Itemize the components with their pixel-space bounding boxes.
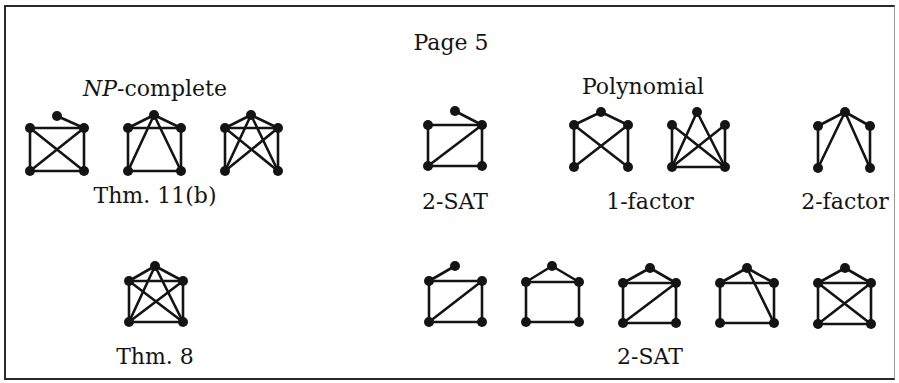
graph-vertex (521, 317, 531, 327)
np-graph-3 (220, 110, 283, 176)
graph-vertex (150, 261, 160, 271)
graph-vertex (813, 163, 823, 173)
graph-vertex (246, 110, 256, 120)
graph-vertex (423, 120, 433, 130)
graph-vertex (220, 166, 230, 176)
graph-vertex (547, 261, 557, 271)
graph-vertex (574, 277, 584, 287)
graph-vertex (618, 278, 628, 288)
graph-vertex (273, 166, 283, 176)
graph-vertex (623, 162, 633, 172)
graph-vertex (52, 111, 62, 121)
graph-vertex (477, 120, 487, 130)
graph-vertex (769, 318, 779, 328)
graph-vertex (424, 276, 434, 286)
graph-vertex (596, 107, 606, 117)
graph-vertex (424, 317, 434, 327)
graph-vertex (25, 123, 35, 133)
graph-vertex (645, 263, 655, 273)
graph-vertex (574, 317, 584, 327)
graph-vertex (477, 276, 487, 286)
graph-edge (697, 112, 725, 167)
graph-vertex (521, 277, 531, 287)
poly-1factor-graph-2 (667, 107, 730, 172)
bottom-2sat-graph-5 (813, 263, 876, 329)
graph-vertex (124, 317, 134, 327)
graph-vertex (79, 166, 89, 176)
graph-vertex (865, 163, 875, 173)
graph-vertex (450, 106, 460, 116)
graph-vertex (569, 162, 579, 172)
poly-2factor-graph (813, 107, 875, 173)
graph-vertex (477, 317, 487, 327)
graph-vertex (671, 318, 681, 328)
graph-vertex (720, 120, 730, 130)
graph-vertex (840, 107, 850, 117)
graph-vertex (450, 261, 460, 271)
bottom-2sat-graph-4 (715, 263, 779, 328)
graph-edge (251, 115, 278, 171)
graph-vertex (769, 278, 779, 288)
graph-vertex (865, 121, 875, 131)
graph-edge (623, 283, 676, 323)
graph-vertex (667, 162, 677, 172)
graph-vertex (273, 123, 283, 133)
graph-vertex (720, 162, 730, 172)
graph-vertex (123, 166, 133, 176)
poly-2sat-graph (423, 106, 487, 171)
graph-vertex (813, 319, 823, 329)
graph-edge (154, 115, 181, 171)
graph-vertex (220, 123, 230, 133)
graph-vertex (123, 123, 133, 133)
thm8-graph-k5 (124, 261, 188, 327)
graph-vertex (176, 166, 186, 176)
graph-vertex (692, 107, 702, 117)
graph-vertex (477, 161, 487, 171)
graph-vertex (813, 121, 823, 131)
graph-edge (128, 115, 154, 171)
graph-edge (225, 115, 251, 171)
poly-1factor-graph-1 (569, 107, 633, 172)
graph-vertex (667, 120, 677, 130)
graph-vertex (423, 161, 433, 171)
graph-vertex (623, 120, 633, 130)
graph-vertex (840, 263, 850, 273)
graph-vertex (79, 123, 89, 133)
graph-vertex (178, 276, 188, 286)
graph-vertex (715, 278, 725, 288)
graph-vertex (569, 120, 579, 130)
graph-vertex (813, 278, 823, 288)
np-graph-2 (123, 110, 186, 176)
graph-edge (428, 125, 482, 166)
graph-vertex (742, 263, 752, 273)
bottom-2sat-graph-1 (424, 261, 487, 327)
graph-vertex (176, 123, 186, 133)
graph-vertex (25, 166, 35, 176)
graph-vertex (149, 110, 159, 120)
graph-vertex (124, 276, 134, 286)
np-graph-1 (25, 111, 89, 176)
graph-vertex (866, 319, 876, 329)
graph-edge (429, 281, 482, 322)
graph-vertex (178, 317, 188, 327)
graph-diagrams (0, 0, 899, 383)
graph-vertex (866, 278, 876, 288)
graph-vertex (618, 318, 628, 328)
graph-vertex (671, 278, 681, 288)
bottom-2sat-graph-3 (618, 263, 681, 328)
bottom-2sat-graph-2 (521, 261, 584, 327)
graph-vertex (715, 318, 725, 328)
